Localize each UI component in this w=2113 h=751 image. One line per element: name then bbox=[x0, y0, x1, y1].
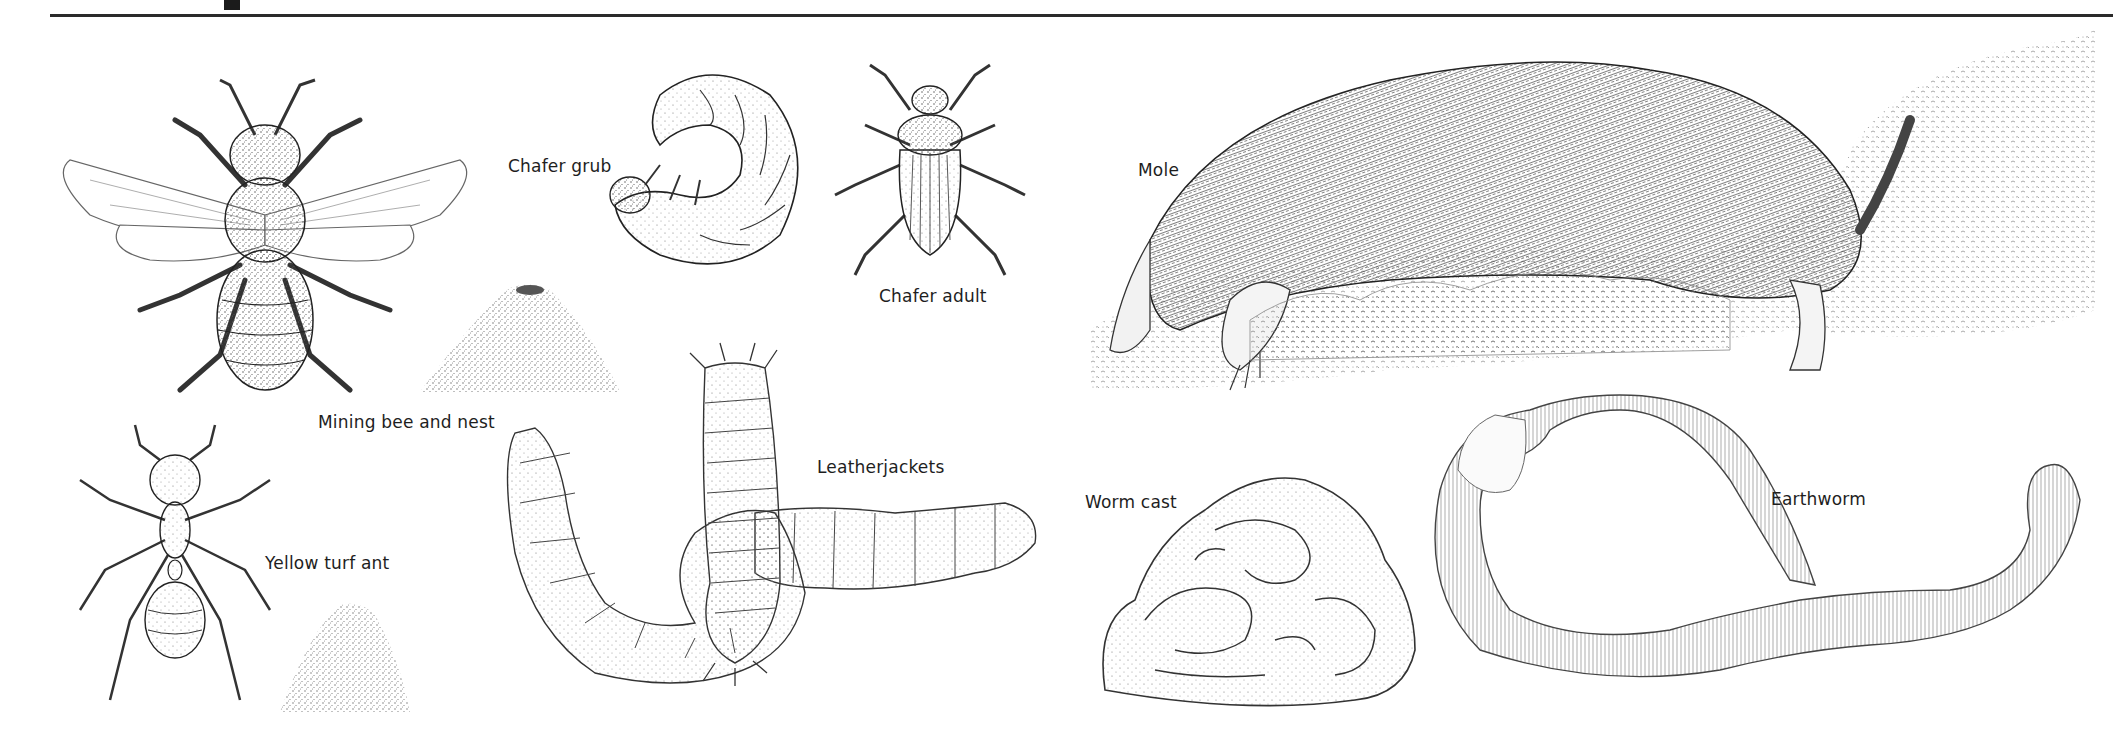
label-mining-bee: Mining bee and nest bbox=[318, 412, 495, 432]
worm-cast-illustration bbox=[1095, 450, 1425, 710]
label-mole: Mole bbox=[1138, 160, 1179, 180]
label-earthworm: Earthworm bbox=[1771, 489, 1866, 509]
label-chafer-adult: Chafer adult bbox=[879, 286, 987, 306]
leatherjackets-illustration bbox=[495, 343, 1055, 723]
ant-icon bbox=[60, 420, 290, 720]
earthworm-illustration bbox=[1420, 390, 2113, 690]
bee-icon bbox=[50, 65, 480, 395]
label-yellow-turf-ant: Yellow turf ant bbox=[265, 553, 389, 573]
header-rule bbox=[50, 14, 2113, 17]
grub-icon bbox=[600, 55, 820, 275]
mole-icon bbox=[1090, 30, 2113, 410]
label-worm-cast: Worm cast bbox=[1085, 492, 1177, 512]
beetle-icon bbox=[825, 55, 1035, 285]
mining-bee-illustration bbox=[50, 65, 480, 395]
chafer-grub-illustration bbox=[600, 55, 820, 275]
worm-cast-icon bbox=[1095, 450, 1425, 710]
earthworm-icon bbox=[1420, 390, 2113, 690]
title-fragment bbox=[224, 0, 240, 10]
label-leatherjackets: Leatherjackets bbox=[817, 457, 944, 477]
chafer-adult-illustration bbox=[825, 55, 1035, 285]
ant-hill-illustration bbox=[280, 600, 410, 715]
yellow-turf-ant-illustration bbox=[60, 420, 290, 720]
mole-illustration bbox=[1090, 30, 2113, 410]
leatherjacket-icon bbox=[495, 343, 1055, 723]
soil-mound-icon bbox=[280, 600, 410, 715]
label-chafer-grub: Chafer grub bbox=[508, 156, 611, 176]
